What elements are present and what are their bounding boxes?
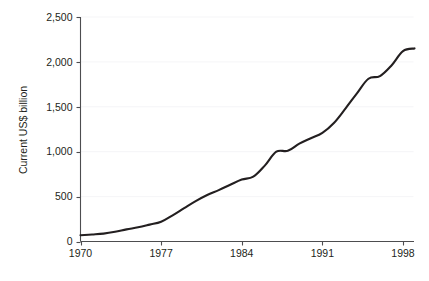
line-chart: 05001,0001,5002,0002,500 197019771984199… (0, 0, 429, 281)
x-tick-label: 1991 (311, 247, 335, 259)
y-axis-title: Current US$ billion (17, 86, 29, 174)
y-tick-label: 1,000 (46, 145, 72, 157)
x-tick-label: 1970 (69, 247, 93, 259)
gridlines (81, 17, 414, 197)
y-tick-label: 2,500 (46, 11, 72, 23)
y-tick-label: 1,500 (46, 101, 72, 113)
chart-figure: 05001,0001,5002,0002,500 197019771984199… (0, 0, 429, 281)
data-series-line (81, 48, 415, 235)
x-tick-label: 1984 (230, 247, 254, 259)
y-tick-label: 500 (55, 190, 73, 202)
tick-marks (77, 18, 404, 246)
x-tick-label: 1998 (391, 247, 415, 259)
y-tick-label: 0 (67, 235, 73, 247)
x-tick-label: 1977 (149, 247, 173, 259)
x-axis-tick-labels: 19701977198419911998 (69, 247, 415, 259)
y-axis-tick-labels: 05001,0001,5002,0002,500 (46, 11, 72, 248)
y-tick-label: 2,000 (46, 56, 72, 68)
